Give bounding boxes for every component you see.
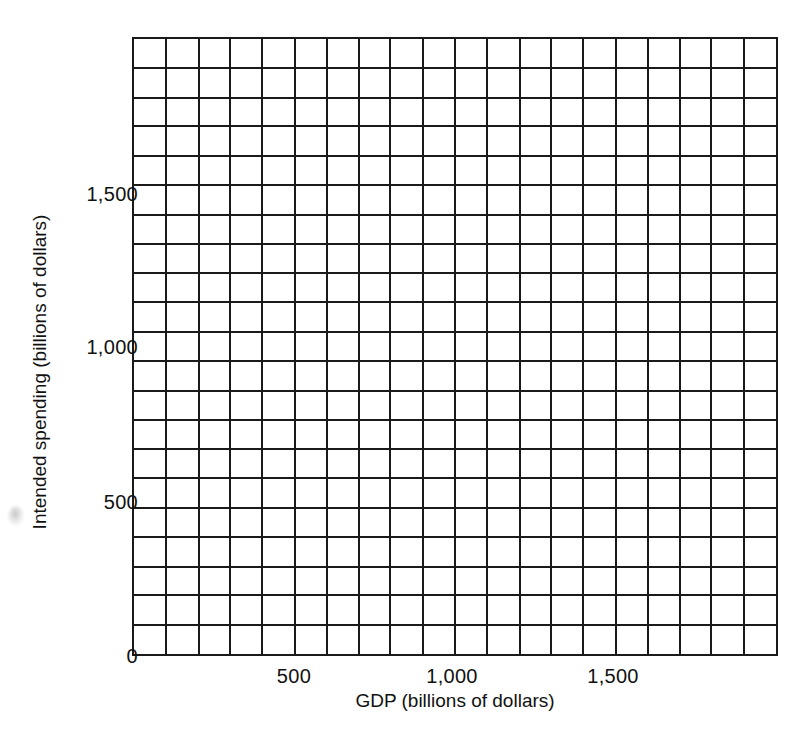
y-axis-title: Intended spending (billions of dollars) bbox=[29, 215, 51, 530]
y-tick-label-1000: 1,000 bbox=[86, 336, 138, 359]
x-axis-title: GDP (billions of dollars) bbox=[355, 690, 554, 712]
plot-area bbox=[132, 37, 778, 656]
y-tick-label-1500: 1,500 bbox=[86, 183, 138, 206]
scan-artifact-smudge bbox=[8, 506, 24, 526]
grid-lines bbox=[134, 39, 776, 654]
chart-page: 500 1,000 1,500 1,500 1,000 500 0 GDP (b… bbox=[0, 0, 811, 740]
y-tick-label-500: 500 bbox=[104, 491, 138, 514]
y-tick-label-0: 0 bbox=[127, 645, 138, 668]
x-tick-label-1000: 1,000 bbox=[426, 665, 478, 688]
x-tick-label-500: 500 bbox=[277, 665, 311, 688]
x-tick-label-1500: 1,500 bbox=[587, 665, 639, 688]
